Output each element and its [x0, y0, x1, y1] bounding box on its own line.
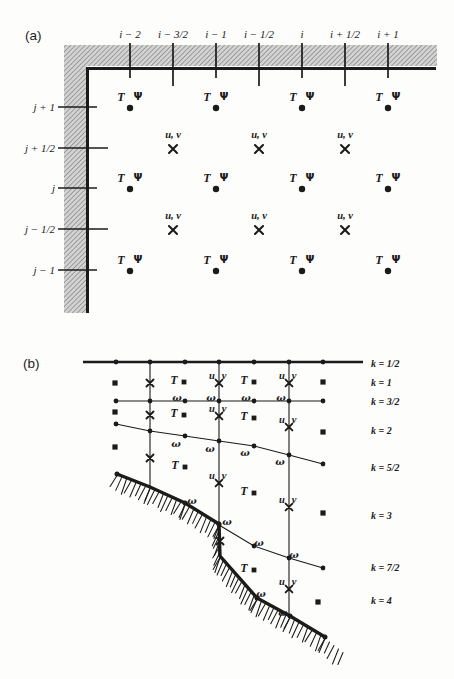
omega-level-dot [252, 360, 257, 365]
t-psi-point: TΨ [375, 171, 400, 192]
column-index-label: i + 1/2 [330, 28, 361, 40]
column-index-label: i + 1 [377, 28, 398, 40]
psi-point-label: Ψ [220, 171, 229, 183]
t-point-label: T [203, 171, 211, 185]
omega-level-dot [252, 399, 257, 404]
u-label: u [209, 370, 215, 381]
t-point-dot [127, 105, 133, 111]
t-square [252, 491, 257, 496]
omega-label: ω [275, 456, 285, 467]
t-square [252, 568, 257, 573]
k-level-label: k = 1 [371, 377, 392, 388]
t-psi-point: TΨ [289, 253, 314, 274]
t-point-label: T [117, 90, 125, 104]
t-point-label: T [117, 171, 125, 185]
staggered-grid-figure: i − 2i − 3/2i − 1i − 1/2ii + 1/2i + 1j +… [0, 0, 454, 679]
t-point-label: T [240, 373, 248, 387]
omega-label: ω [205, 443, 215, 454]
psi-point-label: Ψ [220, 253, 229, 265]
t-point: T [240, 373, 256, 387]
t-point: T [240, 484, 256, 498]
uv-point: uv [209, 403, 227, 419]
panel-a-label: (a) [25, 28, 42, 43]
omega-level-dot [148, 360, 153, 365]
t-point-label: T [240, 561, 248, 575]
psi-point-label: Ψ [306, 90, 315, 102]
t-point-dot [385, 186, 391, 192]
uv-point-cross [169, 145, 177, 153]
uv-point: u, v [337, 129, 353, 153]
omega-level-dot [321, 462, 326, 467]
omega-level-dot [183, 360, 188, 365]
t-point: T [240, 561, 256, 575]
omega-label: ω [289, 549, 299, 560]
omega-label: ω [241, 392, 251, 403]
omega-level-dot [183, 399, 188, 404]
uv-point: uv [279, 494, 297, 510]
t-point-label: T [117, 253, 125, 267]
t-square [320, 429, 325, 434]
panel-a-horizontal-grid: i − 2i − 3/2i − 1i − 1/2ii + 1/2i + 1j +… [23, 28, 437, 313]
t-psi-point: TΨ [289, 171, 314, 192]
u-label: u [209, 470, 215, 481]
omega-level-dot [183, 434, 188, 439]
panel-b-vertical-grid: ωωωωωωωωωωωωωωTuvTuvTuvTuvTuvTuvTuvk = 1… [83, 358, 399, 665]
t-point: T [171, 458, 187, 472]
omega-label: ω [222, 516, 232, 527]
column-index-label: i − 1/2 [244, 28, 275, 40]
omega-level-dot [321, 566, 326, 571]
uv-point: u, v [251, 210, 267, 234]
omega-label: ω [206, 392, 216, 403]
t-psi-point: TΨ [203, 90, 228, 111]
omega-level-dot [321, 360, 326, 365]
t-square [183, 465, 188, 470]
t-point-label: T [240, 484, 248, 498]
omega-level-line [219, 525, 323, 568]
row-index-label: j [50, 182, 55, 194]
bottom-omega-dot [115, 472, 120, 477]
row-index-label: j + 1 [32, 101, 55, 113]
uv-point-cross [341, 145, 349, 153]
omega-level-dot [148, 399, 153, 404]
t-point-dot [127, 186, 133, 192]
t-square [182, 413, 187, 418]
uv-point: uv [279, 414, 297, 430]
k-level-label: k = 4 [371, 595, 392, 606]
t-square [315, 599, 320, 604]
panel-b-label: (b) [23, 356, 40, 371]
column-index-label: i − 3/2 [158, 28, 189, 40]
uv-point: u, v [337, 210, 353, 234]
t-point-dot [385, 268, 391, 274]
omega-level-dot [287, 453, 292, 458]
uv-point-cross [341, 226, 349, 234]
t-point-label: T [171, 458, 179, 472]
t-point: T [170, 373, 186, 387]
t-point-label: T [240, 409, 248, 423]
u-label: u [279, 370, 285, 381]
psi-point-label: Ψ [392, 253, 401, 265]
u-label: u [209, 403, 215, 414]
t-point-dot [213, 105, 219, 111]
wall-boundary-line [88, 69, 437, 314]
t-square [320, 379, 325, 384]
t-square [112, 409, 117, 414]
uv-point: uv [209, 370, 227, 386]
omega-level-dot [321, 399, 326, 404]
psi-point-label: Ψ [134, 253, 143, 265]
uv-point: u, v [165, 129, 181, 153]
bottom-omega-dot [323, 635, 328, 640]
t-psi-point: TΨ [289, 90, 314, 111]
uv-point: uv [209, 470, 227, 486]
uv-point-label: u, v [337, 129, 353, 140]
t-point-dot [299, 186, 305, 192]
omega-label: ω [256, 588, 266, 599]
t-point-label: T [289, 253, 297, 267]
omega-label: ω [171, 438, 181, 449]
t-point-dot [385, 105, 391, 111]
u-label: u [279, 414, 285, 425]
column-index-label: i − 2 [119, 28, 141, 40]
omega-label: ω [240, 447, 250, 458]
omega-level-dot [252, 444, 257, 449]
omega-level-dot [217, 439, 222, 444]
uv-point-label: u, v [251, 129, 267, 140]
